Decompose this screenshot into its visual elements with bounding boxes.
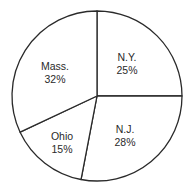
slice-name: Mass.: [41, 60, 69, 73]
slice-label-ohio: Ohio 15%: [51, 130, 73, 156]
slice-percent: 32%: [41, 73, 69, 86]
slice-percent: 25%: [116, 64, 137, 77]
slice-label-nj: N.J. 28%: [114, 123, 135, 149]
slice-name: N.J.: [114, 123, 135, 136]
slice-name: Ohio: [51, 130, 73, 143]
pie-slices: [12, 11, 182, 181]
slice-percent: 28%: [114, 136, 135, 149]
pie-slice-ny: [97, 11, 182, 96]
slice-label-ny: N.Y. 25%: [116, 51, 137, 77]
slice-label-mass: Mass. 32%: [41, 60, 69, 86]
slice-percent: 15%: [51, 143, 73, 156]
slice-name: N.Y.: [116, 51, 137, 64]
pie-chart: [0, 0, 193, 196]
